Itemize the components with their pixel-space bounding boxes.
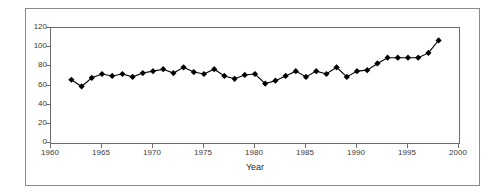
x-tick-mark <box>101 144 102 148</box>
data-point-marker <box>181 64 187 70</box>
x-tick-mark <box>356 144 357 148</box>
data-point-marker <box>293 68 299 74</box>
data-point-marker <box>405 55 411 61</box>
data-point-marker <box>232 76 238 82</box>
data-point-marker <box>272 78 278 84</box>
x-tick-mark <box>152 144 153 148</box>
x-tick-mark <box>458 144 459 148</box>
data-point-marker <box>170 70 176 76</box>
data-point-marker <box>109 73 115 79</box>
series-markers <box>68 37 441 89</box>
x-tick-label: 1960 <box>30 148 70 157</box>
data-point-marker <box>201 71 207 77</box>
x-tick-label: 1970 <box>132 148 172 157</box>
data-point-marker <box>119 71 125 77</box>
data-point-marker <box>160 66 166 72</box>
y-tick-mark <box>46 46 50 47</box>
x-tick-mark <box>305 144 306 148</box>
data-point-marker <box>130 74 136 80</box>
y-tick-mark <box>46 123 50 124</box>
data-point-marker <box>354 68 360 74</box>
data-point-marker <box>395 55 401 61</box>
data-point-marker <box>150 68 156 74</box>
x-tick-mark <box>254 144 255 148</box>
x-tick-label: 1975 <box>183 148 223 157</box>
x-tick-label: 1985 <box>285 148 325 157</box>
x-tick-label: 1990 <box>336 148 376 157</box>
y-tick-mark <box>46 65 50 66</box>
chart-figure: 020406080100120 196019651970197519801985… <box>0 0 504 195</box>
data-point-marker <box>221 73 227 79</box>
plot-area <box>50 27 460 144</box>
data-point-marker <box>364 67 370 73</box>
x-tick-label: 2000 <box>438 148 478 157</box>
data-point-marker <box>385 55 391 61</box>
data-point-marker <box>303 74 309 80</box>
data-point-marker <box>211 66 217 72</box>
x-axis-title: Year <box>50 162 460 172</box>
data-point-marker <box>415 55 421 61</box>
x-tick-mark <box>50 144 51 148</box>
data-point-marker <box>283 73 289 79</box>
x-tick-mark <box>407 144 408 148</box>
series-line <box>71 40 438 86</box>
y-tick-mark <box>46 142 50 143</box>
x-tick-label: 1980 <box>234 148 274 157</box>
data-point-marker <box>99 71 105 77</box>
data-point-marker <box>242 72 248 78</box>
line-series-svg <box>51 28 459 143</box>
y-tick-mark <box>46 104 50 105</box>
data-point-marker <box>191 69 197 75</box>
x-tick-mark <box>203 144 204 148</box>
x-tick-label: 1995 <box>387 148 427 157</box>
y-tick-mark <box>46 27 50 28</box>
data-point-marker <box>323 71 329 77</box>
data-point-marker <box>140 70 146 76</box>
data-point-marker <box>313 68 319 74</box>
data-point-marker <box>374 60 380 66</box>
x-tick-label: 1965 <box>81 148 121 157</box>
y-tick-mark <box>46 85 50 86</box>
data-point-marker <box>68 77 74 83</box>
